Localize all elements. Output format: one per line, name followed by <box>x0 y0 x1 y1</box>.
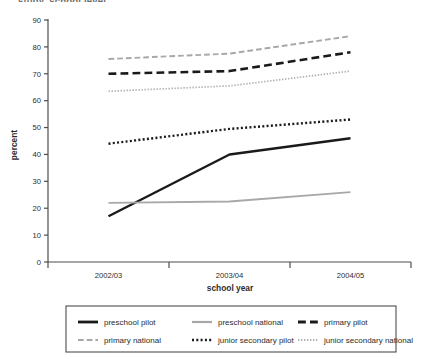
y-tick-label: 30 <box>33 177 41 186</box>
x-tick-label: 2002/03 <box>95 271 122 280</box>
y-axis: 0102030405060708090 <box>33 16 48 267</box>
clipped-figure-title: study, school level <box>18 0 106 2</box>
series-line <box>109 52 351 74</box>
data-series-group <box>109 36 351 216</box>
x-axis-title: school year <box>207 283 254 293</box>
y-tick-label: 80 <box>33 43 41 52</box>
x-tick-label: 2003/04 <box>216 271 243 280</box>
series-line <box>109 138 351 216</box>
line-chart-canvas: 0102030405060708090 2002/032003/042004/0… <box>0 0 427 359</box>
y-tick-label: 20 <box>33 204 41 213</box>
series-line <box>109 119 351 143</box>
y-tick-label: 0 <box>37 258 41 267</box>
y-tick-label: 40 <box>33 150 41 159</box>
y-tick-label: 70 <box>33 70 41 79</box>
y-tick-label: 90 <box>33 16 41 25</box>
x-axis: 2002/032003/042004/05 <box>48 262 411 280</box>
y-axis-title: percent <box>9 130 19 160</box>
y-tick-label: 50 <box>33 123 41 132</box>
y-tick-label: 60 <box>33 96 41 105</box>
series-line <box>109 36 351 59</box>
x-tick-label: 2004/05 <box>337 271 364 280</box>
chart-figure: study, school level 0102030405060708090 … <box>0 0 427 359</box>
y-tick-label: 10 <box>33 231 41 240</box>
